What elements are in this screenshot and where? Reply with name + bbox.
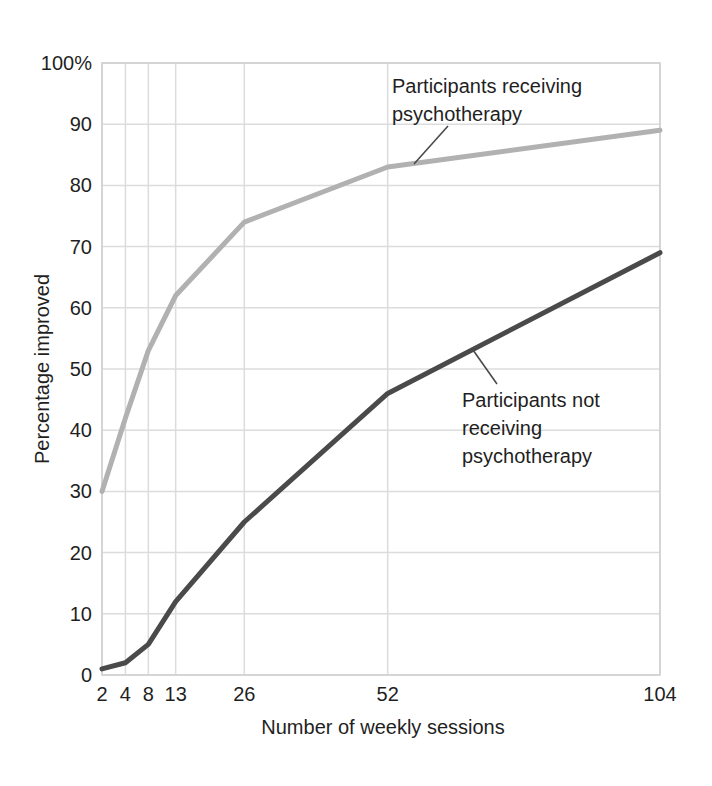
x-tick-label-13: 13 <box>148 684 204 704</box>
annotation-not-receiving-psychotherapy: Participants not receiving psychotherapy <box>462 386 600 470</box>
y-tick-label-70: 70 <box>0 237 92 257</box>
y-tick-label-10: 10 <box>0 604 92 624</box>
psychotherapy-outcome-chart: Percentage improved Number of weekly ses… <box>0 0 712 786</box>
y-tick-label-50: 50 <box>0 359 92 379</box>
annotation-leader-2 <box>473 350 497 384</box>
y-tick-label-30: 30 <box>0 481 92 501</box>
y-tick-label-20: 20 <box>0 543 92 563</box>
x-tick-label-26: 26 <box>216 684 272 704</box>
x-axis-title: Number of weekly sessions <box>261 716 504 739</box>
y-tick-label-100: 100% <box>0 53 92 73</box>
y-tick-label-0: 0 <box>0 665 92 685</box>
y-tick-label-60: 60 <box>0 298 92 318</box>
y-tick-label-80: 80 <box>0 175 92 195</box>
figure-page: Percentage improved Number of weekly ses… <box>0 0 712 786</box>
y-tick-label-40: 40 <box>0 420 92 440</box>
y-tick-label-90: 90 <box>0 114 92 134</box>
x-tick-label-52: 52 <box>360 684 416 704</box>
plot-area <box>0 0 712 786</box>
annotation-receiving-psychotherapy: Participants receiving psychotherapy <box>392 72 582 128</box>
x-tick-label-104: 104 <box>632 684 688 704</box>
